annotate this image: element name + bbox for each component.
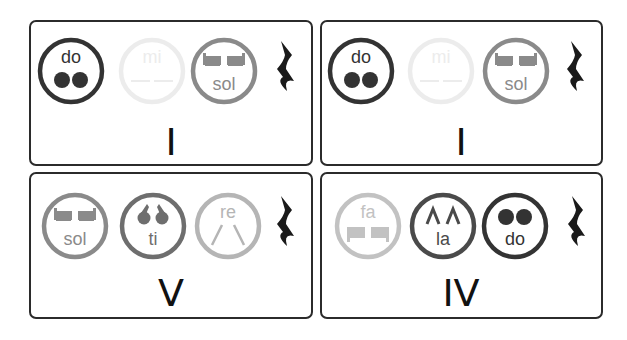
syllable-label: do xyxy=(505,229,525,249)
quarter-rest-icon xyxy=(277,196,294,246)
syllable-label: mi xyxy=(432,47,451,67)
solfege-la-note: la xyxy=(412,195,474,257)
syllable-label: fa xyxy=(360,202,376,222)
solfege-sol-note: sol xyxy=(193,40,255,102)
roman-numeral-label: V xyxy=(158,271,184,315)
roman-numeral-label: I xyxy=(455,120,466,164)
card-2-content: domisolI xyxy=(330,40,584,164)
syllable-label: do xyxy=(61,47,81,67)
roman-numeral-label: I xyxy=(165,120,176,164)
syllable-label: sol xyxy=(504,74,527,94)
syllable-label: ti xyxy=(149,229,158,249)
card-1-content: domisolI xyxy=(40,40,294,164)
chord-cards-artwork: domisolIdomisolIsoltireVfaladoIV xyxy=(0,0,627,340)
syllable-label: la xyxy=(436,229,451,249)
syllable-label: sol xyxy=(63,229,86,249)
solfege-mi-note: mi xyxy=(410,40,472,102)
syllable-label: sol xyxy=(212,74,235,94)
quarter-rest-icon xyxy=(567,41,584,91)
card-4-content: faladoIV xyxy=(337,195,585,315)
solfege-fa-note: fa xyxy=(337,195,399,257)
roman-numeral-label: IV xyxy=(442,271,479,315)
solfege-ti-note: ti xyxy=(122,195,184,257)
solfege-sol-note: sol xyxy=(44,195,106,257)
quarter-rest-icon xyxy=(568,196,585,246)
solfege-do-note: do xyxy=(484,195,546,257)
solfege-do-note: do xyxy=(330,40,392,102)
card-3-content: soltireV xyxy=(44,195,294,315)
syllable-label: re xyxy=(220,202,236,222)
solfege-re-note: re xyxy=(197,195,259,257)
solfege-do-note: do xyxy=(40,40,102,102)
solfege-mi-note: mi xyxy=(121,40,183,102)
syllable-label: mi xyxy=(143,47,162,67)
solfege-sol-note: sol xyxy=(485,40,547,102)
quarter-rest-icon xyxy=(277,41,294,91)
syllable-label: do xyxy=(351,47,371,67)
